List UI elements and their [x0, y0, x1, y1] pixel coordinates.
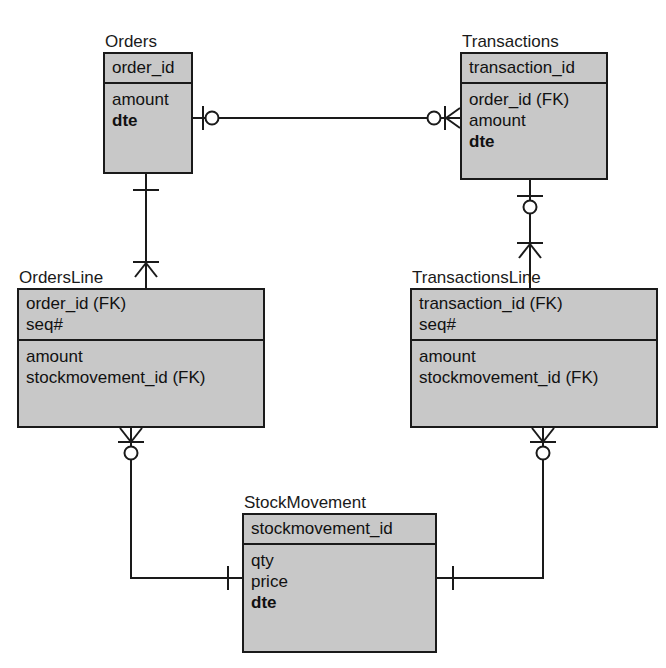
- field-order-id-fk: order_id (FK): [26, 293, 256, 314]
- entity-transactions-key-section: transaction_id: [462, 54, 606, 84]
- entity-ordersline-attr-section: amount stockmovement_id (FK): [19, 341, 263, 426]
- field-dte: dte: [251, 592, 428, 613]
- entity-transactionsline-title: TransactionsLine: [412, 268, 541, 288]
- field-amount: amount: [112, 89, 184, 110]
- field-order-id-fk: order_id (FK): [469, 89, 599, 110]
- relationship-orders-transactions: [193, 106, 460, 130]
- entity-stockmovement-key-section: stockmovement_id: [244, 515, 435, 545]
- entity-stockmovement-box: stockmovement_id qty price dte: [242, 513, 437, 653]
- field-stockmovement-id-fk: stockmovement_id (FK): [419, 367, 649, 388]
- field-order-id: order_id: [112, 57, 184, 78]
- entity-transactionsline[interactable]: TransactionsLine transaction_id (FK) seq…: [410, 288, 658, 428]
- entity-ordersline-title: OrdersLine: [19, 268, 103, 288]
- field-seq: seq#: [419, 314, 649, 335]
- field-dte: dte: [112, 110, 184, 131]
- entity-orders-key-section: order_id: [105, 54, 191, 84]
- field-stockmovement-id-fk: stockmovement_id (FK): [26, 367, 256, 388]
- entity-ordersline-box: order_id (FK) seq# amount stockmovement_…: [17, 288, 265, 428]
- entity-transactions-title: Transactions: [462, 32, 559, 52]
- field-stockmovement-id: stockmovement_id: [251, 518, 428, 539]
- entity-stockmovement-attr-section: qty price dte: [244, 545, 435, 651]
- entity-transactions-attr-section: order_id (FK) amount dte: [462, 84, 606, 178]
- field-price: price: [251, 571, 428, 592]
- relationship-transactionsline-stockmovement: [437, 428, 556, 590]
- entity-transactionsline-box: transaction_id (FK) seq# amount stockmov…: [410, 288, 658, 428]
- field-seq: seq#: [26, 314, 256, 335]
- entity-ordersline-key-section: order_id (FK) seq#: [19, 290, 263, 341]
- field-amount: amount: [469, 110, 599, 131]
- field-amount: amount: [26, 346, 256, 367]
- entity-transactionsline-attr-section: amount stockmovement_id (FK): [412, 341, 656, 426]
- field-amount: amount: [419, 346, 649, 367]
- entity-transactionsline-key-section: transaction_id (FK) seq#: [412, 290, 656, 341]
- field-transaction-id: transaction_id: [469, 57, 599, 78]
- entity-stockmovement-title: StockMovement: [244, 493, 366, 513]
- er-diagram: Orders order_id amount dte Transactions …: [0, 0, 666, 668]
- relationship-ordersline-stockmovement: [118, 428, 242, 590]
- entity-stockmovement[interactable]: StockMovement stockmovement_id qty price…: [242, 513, 437, 653]
- entity-orders-title: Orders: [105, 32, 157, 52]
- entity-orders-box: order_id amount dte: [103, 52, 193, 174]
- entity-orders[interactable]: Orders order_id amount dte: [103, 52, 193, 174]
- entity-orders-attr-section: amount dte: [105, 84, 191, 172]
- field-qty: qty: [251, 550, 428, 571]
- entity-transactions-box: transaction_id order_id (FK) amount dte: [460, 52, 608, 180]
- relationship-orders-ordersline: [133, 174, 159, 288]
- field-dte: dte: [469, 131, 599, 152]
- entity-ordersline[interactable]: OrdersLine order_id (FK) seq# amount sto…: [17, 288, 265, 428]
- field-transaction-id-fk: transaction_id (FK): [419, 293, 649, 314]
- entity-transactions[interactable]: Transactions transaction_id order_id (FK…: [460, 52, 608, 180]
